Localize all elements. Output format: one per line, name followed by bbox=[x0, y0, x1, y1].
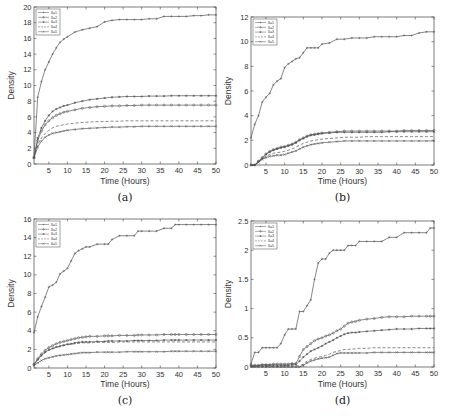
marker-star bbox=[133, 339, 135, 341]
panel-caption: (b) bbox=[335, 191, 351, 204]
x-tick-label: 45 bbox=[193, 370, 201, 379]
y-tick-label: 8 bbox=[244, 62, 248, 71]
marker-star bbox=[155, 95, 157, 97]
y-tick-label: 14 bbox=[23, 233, 31, 242]
marker-star bbox=[306, 136, 308, 138]
legend-label: δ=3 bbox=[268, 234, 274, 238]
x-tick-label: 15 bbox=[299, 369, 307, 378]
y-tick-label: 18 bbox=[23, 18, 31, 27]
marker-star bbox=[207, 95, 209, 97]
marker-star bbox=[66, 104, 68, 106]
marker-star bbox=[388, 131, 390, 133]
y-axis-label: Density bbox=[6, 71, 16, 100]
y-tick-label: 6 bbox=[244, 87, 248, 96]
plot-area bbox=[251, 221, 434, 367]
x-tick-label: 15 bbox=[82, 166, 90, 175]
marker-star bbox=[325, 343, 327, 345]
x-tick-label: 50 bbox=[430, 369, 438, 378]
plot-area bbox=[34, 7, 216, 164]
y-tick-label: 6 bbox=[27, 113, 31, 122]
y-tick-label: 0.5 bbox=[238, 333, 248, 342]
x-tick-label: 10 bbox=[280, 369, 288, 378]
x-tick-label: 45 bbox=[193, 166, 201, 175]
marker-star bbox=[107, 340, 109, 342]
y-axis-label: Density bbox=[223, 279, 233, 308]
marker-star bbox=[276, 148, 278, 150]
x-tick-label: 30 bbox=[355, 369, 363, 378]
x-tick-label: 25 bbox=[336, 167, 344, 176]
figure-canvas: 510152025303540455002468101214161820Time… bbox=[0, 0, 451, 419]
y-tick-label: 1 bbox=[244, 304, 248, 313]
marker-star bbox=[40, 127, 42, 129]
marker-star bbox=[70, 343, 72, 345]
y-tick-label: 2.5 bbox=[238, 217, 248, 226]
marker-star bbox=[403, 328, 405, 330]
marker-star bbox=[200, 95, 202, 97]
x-axis-label: Time (Hours) bbox=[318, 379, 367, 389]
marker-star bbox=[295, 142, 297, 144]
y-tick-label: 1.5 bbox=[238, 275, 248, 284]
marker-star bbox=[89, 99, 91, 101]
y-tick-label: 0 bbox=[27, 364, 31, 373]
marker-star bbox=[343, 333, 345, 335]
chart-panel-c: 51015202530354045500246810121416Time (Ho… bbox=[6, 215, 220, 407]
legend-label: δ=5 bbox=[268, 40, 274, 44]
y-tick-label: 10 bbox=[240, 37, 248, 46]
y-tick-label: 2 bbox=[244, 246, 248, 255]
y-tick-label: 12 bbox=[23, 252, 31, 261]
marker-star bbox=[96, 98, 98, 100]
x-axis-label: Time (Hours) bbox=[318, 176, 367, 186]
marker-star bbox=[373, 131, 375, 133]
marker-star bbox=[126, 95, 128, 97]
marker-star bbox=[336, 131, 338, 133]
y-axis-label: Density bbox=[223, 76, 233, 105]
marker-star bbox=[85, 341, 87, 343]
marker-star bbox=[74, 102, 76, 104]
legend-label: δ=2 bbox=[51, 16, 57, 20]
x-tick-label: 5 bbox=[264, 167, 268, 176]
marker-star bbox=[291, 144, 293, 146]
legend: δ=1δ=2δ=3δ=4δ=5 bbox=[253, 223, 277, 249]
x-tick-label: 20 bbox=[318, 369, 326, 378]
marker-star bbox=[44, 120, 46, 122]
y-tick-label: 20 bbox=[23, 3, 31, 12]
marker-star bbox=[43, 233, 45, 235]
y-tick-label: 0 bbox=[244, 161, 248, 170]
x-tick-label: 45 bbox=[411, 167, 419, 176]
marker-star bbox=[272, 149, 274, 151]
y-tick-label: 0 bbox=[244, 363, 248, 372]
marker-star bbox=[313, 134, 315, 136]
x-tick-label: 40 bbox=[175, 370, 183, 379]
marker-star bbox=[55, 108, 57, 110]
x-tick-label: 5 bbox=[47, 370, 51, 379]
x-tick-label: 35 bbox=[156, 370, 164, 379]
y-tick-label: 4 bbox=[244, 111, 248, 120]
marker-star bbox=[43, 21, 45, 23]
legend-label: δ=2 bbox=[51, 228, 57, 232]
legend-label: δ=5 bbox=[268, 244, 274, 248]
y-tick-label: 8 bbox=[27, 289, 31, 298]
legend-label: δ=5 bbox=[51, 30, 57, 34]
marker-star bbox=[111, 96, 113, 98]
x-tick-label: 20 bbox=[100, 370, 108, 379]
legend-label: δ=4 bbox=[51, 237, 57, 241]
y-tick-label: 4 bbox=[27, 128, 31, 137]
marker-star bbox=[260, 235, 262, 237]
legend-label: δ=3 bbox=[268, 30, 274, 34]
marker-star bbox=[310, 134, 312, 136]
x-tick-label: 40 bbox=[392, 369, 400, 378]
y-tick-label: 2 bbox=[244, 136, 248, 145]
legend: δ=1δ=2δ=3δ=4δ=5 bbox=[36, 221, 60, 247]
x-tick-label: 40 bbox=[175, 166, 183, 175]
marker-star bbox=[118, 96, 120, 98]
marker-star bbox=[396, 328, 398, 330]
marker-star bbox=[396, 131, 398, 133]
chart-panel-d: 510152025303540455000.511.522.5Time (Hou… bbox=[223, 217, 438, 407]
x-tick-label: 5 bbox=[47, 166, 51, 175]
x-tick-label: 30 bbox=[138, 166, 146, 175]
marker-star bbox=[340, 335, 342, 337]
marker-star bbox=[155, 339, 157, 341]
legend-label: δ=4 bbox=[268, 35, 274, 39]
marker-star bbox=[63, 105, 65, 107]
x-tick-label: 15 bbox=[299, 167, 307, 176]
